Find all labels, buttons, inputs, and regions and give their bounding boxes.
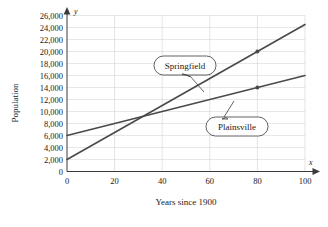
annotation-springfield: Springfield bbox=[154, 56, 216, 92]
y-tick-label: 24,000 bbox=[40, 23, 63, 33]
y-tick-label: 0 bbox=[59, 167, 63, 177]
annotation-plainsville: Plainsville bbox=[206, 101, 268, 136]
y-tick-label: 22,000 bbox=[40, 35, 63, 45]
annotation-label-springfield: Springfield bbox=[165, 61, 206, 71]
data-point-marker bbox=[255, 86, 259, 90]
annotation-label-plainsville: Plainsville bbox=[218, 122, 256, 132]
x-axis-variable-label: x bbox=[308, 158, 313, 167]
x-tick-labels: 0 20 40 60 80 100 bbox=[65, 176, 312, 186]
y-axis bbox=[64, 7, 71, 172]
y-tick-label: 26,000 bbox=[40, 11, 63, 21]
x-tick-label: 40 bbox=[158, 176, 167, 186]
y-tick-labels: 0 2,000 4,000 6,000 8,000 10,000 12,000 … bbox=[40, 11, 63, 177]
y-tick-label: 10,000 bbox=[40, 107, 63, 117]
y-tick-label: 6,000 bbox=[44, 131, 63, 141]
y-tick-label: 4,000 bbox=[44, 143, 63, 153]
horizontal-gridlines bbox=[67, 16, 305, 172]
chart-canvas: y x 0 2,000 4,000 6,000 8,000 10,000 12,… bbox=[0, 0, 328, 227]
x-axis bbox=[67, 168, 320, 175]
x-axis-title: Years since 1900 bbox=[155, 197, 217, 207]
y-tick-label: 14,000 bbox=[40, 83, 63, 93]
x-tick-label: 80 bbox=[253, 176, 262, 186]
y-tick-label: 8,000 bbox=[44, 119, 63, 129]
y-tick-label: 2,000 bbox=[44, 155, 63, 165]
population-line-chart: y x 0 2,000 4,000 6,000 8,000 10,000 12,… bbox=[0, 0, 328, 227]
y-tick-label: 12,000 bbox=[40, 95, 63, 105]
x-tick-label: 60 bbox=[206, 176, 215, 186]
y-tick-label: 16,000 bbox=[40, 71, 63, 81]
series-springfield bbox=[67, 25, 305, 160]
y-axis-title: Population bbox=[10, 83, 20, 123]
data-point-marker bbox=[255, 50, 259, 54]
vertical-gridlines bbox=[115, 16, 305, 172]
y-tick-label: 20,000 bbox=[40, 47, 63, 57]
y-axis-variable-label: y bbox=[73, 7, 78, 16]
x-tick-label: 100 bbox=[299, 176, 312, 186]
series-plainsville bbox=[67, 76, 305, 136]
y-tick-label: 18,000 bbox=[40, 59, 63, 69]
x-tick-label: 0 bbox=[65, 176, 69, 186]
x-tick-label: 20 bbox=[110, 176, 119, 186]
